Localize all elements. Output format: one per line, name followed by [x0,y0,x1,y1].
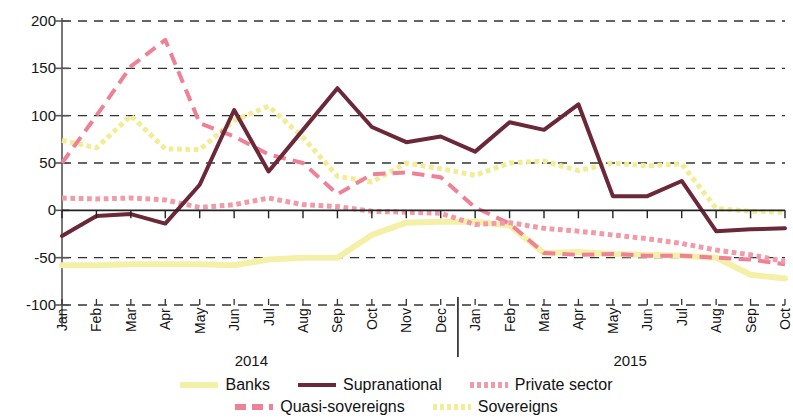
series-line-private-sector [62,198,785,261]
legend-swatch-icon [235,404,273,410]
x-axis-tick-label: Jul [675,308,689,358]
x-axis-tick-label: Jul [262,308,276,358]
x-axis-year-label: 2015 [600,352,660,369]
legend-row: Quasi-sovereignsSovereigns [0,396,793,418]
x-axis-tick-label: Oct [778,308,792,358]
x-axis-tick-label: Aug [709,308,723,358]
legend-label: Private sector [515,377,613,393]
legend-swatch-icon [298,383,336,387]
legend-item-banks[interactable]: Banks [180,377,269,393]
x-axis-tick-label: May [193,308,207,358]
x-axis-tick-label: Nov [399,308,413,358]
x-axis-tick-label: Jan [55,308,69,358]
x-axis-tick-label: Feb [503,308,517,358]
legend-label: Banks [225,377,269,393]
legend-item-quasi-sovereigns[interactable]: Quasi-sovereigns [235,399,405,415]
x-axis-tick-label: Oct [365,308,379,358]
x-axis-tick-label: Mar [537,308,551,358]
legend-item-supranational[interactable]: Supranational [298,377,442,393]
x-axis-tick-label: May [606,308,620,358]
legend-label: Sovereigns [478,399,558,415]
series-line-sovereigns [62,106,785,212]
x-axis-year-label: 2014 [221,352,281,369]
x-axis-tick-label: Sep [330,308,344,358]
x-axis-tick-label: Aug [296,308,310,358]
x-axis-tick-label: Apr [158,308,172,358]
series-line-quasi-sovereigns [62,40,785,264]
legend-swatch-icon [433,404,471,410]
x-axis-tick-label: Mar [124,308,138,358]
chart-container: 200150100500-50-100 JanFebMarAprMayJunJu… [0,0,793,419]
legend-swatch-icon [180,382,218,388]
x-axis-tick-label: Jun [227,308,241,358]
x-axis-tick-label: Jan [468,308,482,358]
x-axis-tick-label: Apr [571,308,585,358]
legend-item-private-sector[interactable]: Private sector [470,377,613,393]
legend-label: Quasi-sovereigns [280,399,405,415]
chart-legend: BanksSupranationalPrivate sectorQuasi-so… [0,374,793,419]
x-axis-tick-label: Dec [434,308,448,358]
series-line-banks [62,222,785,279]
legend-item-sovereigns[interactable]: Sovereigns [433,399,558,415]
legend-swatch-icon [470,382,508,388]
x-axis-tick-label: Sep [744,308,758,358]
x-axis-tick-label: Feb [89,308,103,358]
legend-label: Supranational [343,377,442,393]
legend-row: BanksSupranationalPrivate sector [0,374,793,396]
x-axis-labels: JanFebMarAprMayJunJulAugSepOctNovDecJanF… [62,308,785,360]
x-axis-tick-label: Jun [640,308,654,358]
